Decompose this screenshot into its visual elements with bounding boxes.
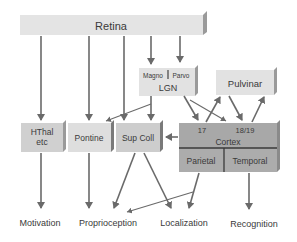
parietal-label: Parietal	[187, 156, 216, 166]
supcoll-node: Sup Coll	[116, 120, 163, 152]
arrow-supcoll-proprioception	[114, 153, 135, 208]
output-motivation: Motivation	[19, 218, 60, 228]
retina-label: Retina	[95, 20, 128, 32]
area17-label: 17	[198, 126, 206, 135]
hthal-node: HThal etc	[21, 120, 66, 152]
parvo-label: Parvo	[173, 72, 190, 79]
cortex-label: Cortex	[215, 137, 241, 147]
hthal-label: HThal	[31, 127, 54, 137]
pontine-node: Pontine	[68, 120, 114, 152]
pontine-label: Pontine	[75, 133, 104, 143]
supcoll-label: Sup Coll	[122, 133, 154, 143]
retina-node: Retina	[20, 11, 207, 35]
hthal-etc-label: etc	[36, 137, 48, 147]
lgn-label: LGN	[159, 83, 178, 93]
arrow-parietal-localization	[189, 173, 199, 208]
lgn-node: Magno Parvo LGN	[139, 65, 198, 96]
output-proprioception: Proprioception	[79, 218, 137, 228]
pulvinar-label: Pulvinar	[228, 78, 262, 89]
temporal-label: Temporal	[233, 156, 268, 166]
pathway-diagram: Retina Magno Parvo LGN Pulvinar HThal et…	[0, 0, 297, 242]
arrow-area17-pulvinar	[206, 97, 220, 122]
area1819-label: 18/19	[236, 126, 255, 135]
arrow-pulvinar-area1819	[229, 96, 242, 120]
arrow-lgn-pontine	[106, 104, 151, 121]
cortex-node: 17 18/19 Cortex Parietal Temporal	[179, 120, 280, 172]
output-recognition: Recognition	[230, 219, 278, 229]
output-localization: Localization	[160, 218, 208, 228]
arrow-area1819-pulvinar	[252, 97, 264, 122]
magno-label: Magno	[143, 72, 163, 80]
pulvinar-node: Pulvinar	[216, 67, 277, 95]
arrow-lgn-area17	[184, 96, 198, 120]
arrow-parietal-proprioception	[127, 192, 193, 212]
